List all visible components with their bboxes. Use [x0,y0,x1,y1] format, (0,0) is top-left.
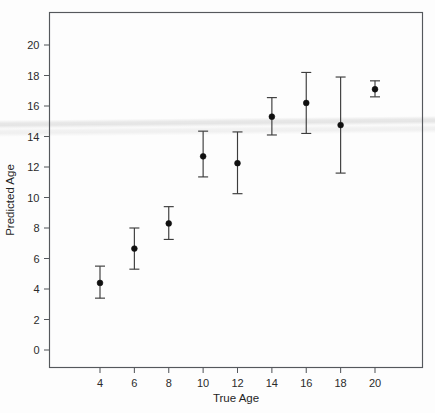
x-tick-label-12: 12 [231,377,243,389]
data-point-marker [303,100,309,106]
x-tick-label-10: 10 [197,377,209,389]
x-tick-label-14: 14 [266,377,278,389]
y-tick-label-2: 2 [33,314,39,326]
plot-frame [50,13,423,368]
x-tick-label-20: 20 [369,377,381,389]
x-tick-label-8: 8 [166,377,172,389]
figure-canvas: 02468101214161820 468101214161820 True A… [0,0,435,413]
x-axis-tick-labels: 468101214161820 [97,377,381,389]
y-tick-label-6: 6 [33,253,39,265]
data-point [129,228,139,269]
data-point-marker [269,114,275,120]
data-point [267,98,277,135]
y-tick-label-20: 20 [27,39,39,51]
y-tick-label-8: 8 [33,222,39,234]
y-axis-tick-labels: 02468101214161820 [27,39,39,356]
data-point-marker [97,280,103,286]
y-tick-label-18: 18 [27,70,39,82]
data-point-marker [166,221,172,227]
x-tick-label-4: 4 [97,377,103,389]
data-series-error-bars [95,72,380,298]
y-tick-label-14: 14 [27,131,39,143]
data-point [336,77,346,173]
y-tick-label-12: 12 [27,161,39,173]
data-point-marker [131,246,137,252]
y-tick-label-16: 16 [27,100,39,112]
data-point-marker [338,122,344,128]
scatter-plot: 02468101214161820 468101214161820 True A… [0,0,435,413]
y-tick-label-0: 0 [33,344,39,356]
x-tick-label-6: 6 [131,377,137,389]
x-axis-ticks [100,368,375,374]
y-axis-title: Predicted Age [4,164,16,236]
data-point [301,72,311,133]
data-point [198,131,208,177]
y-tick-label-10: 10 [27,192,39,204]
data-point-marker [235,160,241,166]
data-point-marker [372,86,378,92]
data-point [164,207,174,240]
x-tick-label-18: 18 [335,377,347,389]
data-point [95,266,105,298]
y-axis-ticks [44,45,50,350]
data-point-marker [200,153,206,159]
y-tick-label-4: 4 [33,283,39,295]
x-tick-label-16: 16 [300,377,312,389]
data-point [370,81,380,97]
x-axis-title: True Age [213,392,259,404]
data-point [233,132,243,194]
